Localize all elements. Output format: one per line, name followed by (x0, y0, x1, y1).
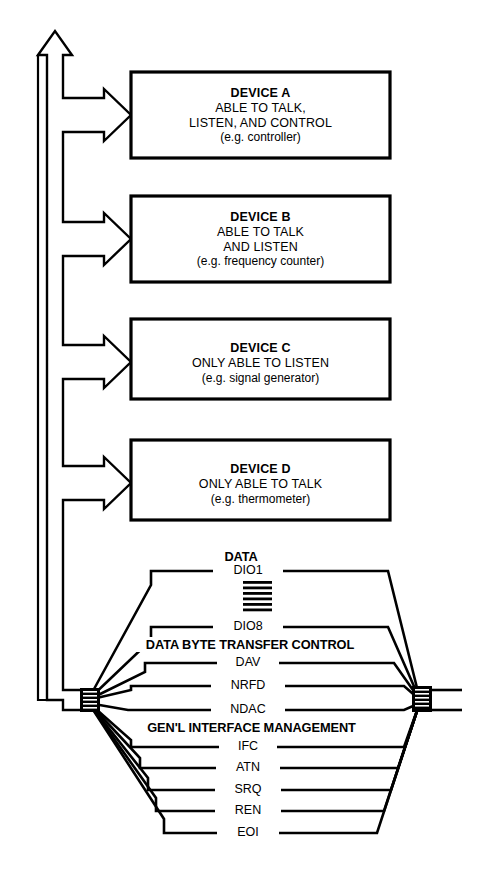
gpib-bus-diagram: DEVICE A ABLE TO TALK, LISTEN, AND CONTR… (0, 0, 484, 880)
bus-group-label-general-interface-management: GEN'L INTERFACE MANAGEMENT (133, 720, 370, 735)
bus-pinch-left (80, 688, 100, 712)
device-box-a (131, 72, 390, 158)
bus-pinch-right (412, 686, 432, 712)
bus-trunk-arrow (38, 31, 131, 710)
device-box-b (131, 196, 390, 282)
bus-line-dio1 (88, 571, 420, 700)
bus-line-nrfd (88, 686, 420, 700)
bus-line-atn (88, 702, 420, 768)
device-box-c (131, 319, 390, 399)
bus-line-ndac (88, 703, 420, 710)
diagram-vector-layer (0, 0, 484, 880)
device-box-d (131, 440, 390, 520)
bus-line-dav (88, 663, 420, 700)
device-boxes (131, 72, 390, 520)
bus-stub-right (430, 690, 462, 710)
bus-group-label-data: DATA (181, 549, 301, 564)
bus-group-label-data-byte-transfer-control: DATA BYTE TRANSFER CONTROL (131, 637, 369, 652)
dio-ellipsis-hatch (243, 581, 272, 611)
